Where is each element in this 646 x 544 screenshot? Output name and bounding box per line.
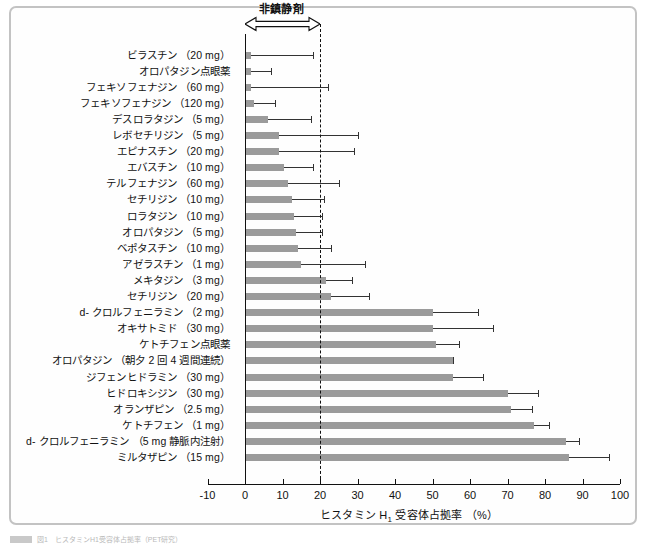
category-label: フェキソフェナジン （120 mg） xyxy=(80,97,230,109)
error-bar-cap xyxy=(271,68,272,75)
x-tick-label: 60 xyxy=(450,489,490,501)
error-bar-cap xyxy=(493,325,494,332)
category-label: デスロラタジン （5 mg） xyxy=(112,113,230,125)
x-tick xyxy=(358,479,359,484)
x-tick xyxy=(620,479,621,484)
bar xyxy=(245,374,453,381)
error-bar-cap xyxy=(354,148,355,155)
x-tick-label: 20 xyxy=(300,489,340,501)
chart-plot-area: ビラスチン （20 mg）オロパタジン点眼薬フェキソフェナジン （60 mg）フ… xyxy=(0,0,646,544)
category-label: オロパタジン （朝夕 2 回 4 週間連続） xyxy=(52,354,230,366)
x-tick-label: 100 xyxy=(600,489,640,501)
error-bar-cap xyxy=(532,406,533,413)
category-label: d- クロルフェニラミン （2 mg） xyxy=(80,306,230,318)
bar xyxy=(245,229,296,236)
error-bar-cap xyxy=(339,180,340,187)
error-bar-cap xyxy=(322,229,323,236)
bar xyxy=(245,325,433,332)
category-label: テルフェナジン （60 mg） xyxy=(106,177,230,189)
category-label: ケトチフェン （1 mg） xyxy=(122,419,230,431)
x-tick xyxy=(433,479,434,484)
bar xyxy=(245,422,534,429)
error-bar-cap xyxy=(358,132,359,139)
category-label: エピナスチン （20 mg） xyxy=(117,145,231,157)
x-tick-label: 10 xyxy=(263,489,303,501)
error-bar-cap xyxy=(483,374,484,381)
x-tick-label: 0 xyxy=(225,489,265,501)
error-bar-cap xyxy=(322,213,323,220)
bar xyxy=(245,196,292,203)
x-tick xyxy=(395,479,396,484)
figure-caption: 図1 ヒスタミンH1受容体占拠率（PET研究） xyxy=(10,534,182,544)
x-tick xyxy=(245,479,246,484)
category-label: ミルタザピン （15 mg） xyxy=(117,451,231,463)
error-bar-cap xyxy=(538,390,539,397)
bar xyxy=(245,213,294,220)
category-label: ヒドロキシジン （30 mg） xyxy=(106,387,230,399)
error-bar-cap xyxy=(459,341,460,348)
caption-text: 図1 ヒスタミンH1受容体占拠率（PET研究） xyxy=(37,534,182,544)
x-tick-label: -10 xyxy=(188,489,228,501)
category-label: d- クロルフェニラミン （5 mg 静脈内注射） xyxy=(26,435,230,447)
category-label: フェキソフェナジン （60 mg） xyxy=(86,81,230,93)
bar xyxy=(245,245,298,252)
category-label: アゼラスチン （1 mg） xyxy=(122,258,230,270)
error-bar-cap xyxy=(275,100,276,107)
category-label: オキサトミド （30 mg） xyxy=(117,322,231,334)
category-label: オロパタジン （5 mg） xyxy=(122,226,230,238)
x-tick xyxy=(508,479,509,484)
x-axis-title-main: ヒスタミン H xyxy=(320,509,387,521)
error-bar-cap xyxy=(609,454,610,461)
bar xyxy=(245,132,279,139)
double-arrow-icon xyxy=(245,16,320,32)
error-bar-cap xyxy=(352,277,353,284)
bar xyxy=(245,164,284,171)
category-label: セチリジン （10 mg） xyxy=(127,193,230,205)
category-label: エバスチン （10 mg） xyxy=(127,161,230,173)
x-tick xyxy=(320,479,321,484)
x-tick xyxy=(283,479,284,484)
bar xyxy=(245,277,326,284)
category-label: オロパタジン点眼薬 xyxy=(139,65,230,77)
error-bar-cap xyxy=(313,52,314,59)
bar xyxy=(245,180,288,187)
category-label: ロラタジン （10 mg） xyxy=(127,210,230,222)
category-label: ベポタスチン （10 mg） xyxy=(117,242,231,254)
x-axis-title-rest: 受容体占拠率 （%） xyxy=(392,509,498,521)
x-tick-label: 90 xyxy=(563,489,603,501)
y-axis-line xyxy=(245,34,246,484)
x-tick-label: 80 xyxy=(525,489,565,501)
bar xyxy=(245,309,433,316)
x-tick xyxy=(583,479,584,484)
bar xyxy=(245,390,508,397)
error-bar-line xyxy=(245,87,328,88)
x-tick xyxy=(208,479,209,484)
non-sedating-annotation-label: 非鎮静剤 xyxy=(259,0,305,16)
caption-swatch xyxy=(10,536,32,543)
error-bar-cap xyxy=(313,164,314,171)
error-bar-cap xyxy=(453,357,454,364)
error-bar-cap xyxy=(311,116,312,123)
x-tick-label: 70 xyxy=(488,489,528,501)
x-axis-line xyxy=(208,484,621,485)
category-label: レボセチリジン （5 mg） xyxy=(112,129,230,141)
error-bar-cap xyxy=(549,422,550,429)
error-bar-cap xyxy=(365,261,366,268)
category-label: ケトチフェン点眼薬 xyxy=(139,338,230,350)
error-bar-cap xyxy=(369,293,370,300)
bar xyxy=(245,148,279,155)
bar xyxy=(245,454,569,461)
x-tick-label: 40 xyxy=(375,489,415,501)
x-axis-title: ヒスタミン H1 受容体占拠率 （%） xyxy=(320,506,498,524)
x-tick xyxy=(545,479,546,484)
error-bar-cap xyxy=(579,438,580,445)
x-tick-label: 30 xyxy=(338,489,378,501)
category-label: オランザピン （2.5 mg） xyxy=(113,403,230,415)
bar xyxy=(245,293,331,300)
bar xyxy=(245,341,436,348)
category-label: ジフェンヒドラミン （30 mg） xyxy=(86,371,230,383)
category-label: セチリジン （20 mg） xyxy=(127,290,230,302)
category-label: メキタジン （3 mg） xyxy=(133,274,230,286)
bar xyxy=(245,116,268,123)
bar xyxy=(245,261,301,268)
